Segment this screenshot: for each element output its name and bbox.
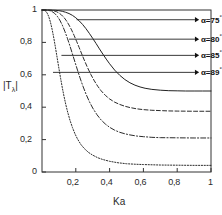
x-tick-label: 0,2 (67, 177, 79, 187)
chart-figure: 0,20,40,60,8100,20,40,60,81 |Tλ| Ka α=75… (0, 0, 222, 215)
arrowhead-icon (195, 37, 199, 42)
y-tick-label: 0,2 (20, 134, 32, 144)
legend-label-75: α=75° (201, 14, 222, 25)
y-tick-label: 0,6 (20, 69, 32, 79)
arrowhead-icon (195, 53, 199, 58)
y-tick-label: 1 (32, 4, 37, 14)
x-tick-label: 1 (208, 177, 213, 187)
leader-lines (53, 17, 199, 75)
x-tick-label: 0,6 (134, 177, 146, 187)
series-curve-85 (42, 10, 211, 138)
x-tick-label: 0,4 (101, 177, 113, 187)
degree-symbol-icon: ° (219, 33, 221, 39)
legend-label-89: α=89° (201, 66, 222, 77)
series-curve-75 (42, 10, 211, 91)
x-axis-label: Ka (113, 196, 125, 207)
series-curve-80 (42, 10, 211, 111)
x-tick-label: 0,8 (168, 177, 180, 187)
y-tick-label: 0,4 (20, 101, 32, 111)
degree-symbol-icon: ° (219, 49, 221, 55)
arrowhead-icon (195, 70, 199, 75)
y-tick-label: 0 (32, 166, 37, 176)
arrowhead-icon (195, 17, 199, 22)
legend-label-text: α=85 (201, 51, 220, 60)
legend-label-text: α=80 (201, 35, 220, 44)
legend-label-text: α=75 (201, 15, 220, 24)
y-axis-label: |Tλ| (3, 80, 18, 93)
series-curve-89 (42, 10, 211, 165)
y-tick-label: 0,8 (20, 36, 32, 46)
degree-symbol-icon: ° (219, 66, 221, 72)
legend-label-80: α=80° (201, 33, 222, 44)
series-lines (42, 10, 211, 165)
degree-symbol-icon: ° (219, 14, 221, 20)
legend-label-85: α=85° (201, 49, 222, 60)
legend-label-text: α=89 (201, 68, 220, 77)
